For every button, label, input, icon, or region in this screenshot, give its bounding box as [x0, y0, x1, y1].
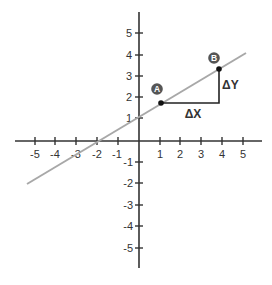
x-tick-label: -5 — [30, 148, 40, 160]
point-b-label: B — [208, 52, 220, 64]
delta-y-label: ΔY — [222, 78, 239, 92]
y-tick-label: 2 — [126, 91, 132, 103]
point-a — [158, 100, 164, 106]
x-tick-label: 4 — [219, 148, 225, 160]
point-b-letter: B — [211, 53, 217, 63]
x-tick-label: 3 — [198, 148, 204, 160]
x-tick-label: 1 — [157, 148, 163, 160]
x-tick-label: -4 — [50, 148, 60, 160]
coordinate-plane: -5 -4 -3 -2 -1 1 2 3 4 5 5 4 3 2 1 -1 -2… — [0, 0, 272, 285]
y-tick-label: -5 — [123, 242, 133, 254]
sloped-line — [27, 53, 246, 184]
point-a-letter: A — [154, 84, 160, 94]
y-tick-label: -1 — [123, 156, 133, 168]
y-tick-label: 5 — [126, 27, 132, 39]
x-tick-label: -2 — [92, 148, 102, 160]
x-tick-label: 5 — [240, 148, 246, 160]
delta-x-label: ΔX — [185, 107, 202, 121]
point-b — [216, 66, 222, 72]
y-tick-label: -3 — [123, 199, 133, 211]
y-tick-label: 4 — [126, 49, 132, 61]
x-tick-label: -1 — [112, 148, 122, 160]
x-tick-label: 2 — [177, 148, 183, 160]
point-a-label: A — [151, 83, 163, 95]
y-tick-label: -4 — [123, 220, 133, 232]
y-tick-label: -2 — [123, 177, 133, 189]
y-tick-label: 3 — [126, 70, 132, 82]
